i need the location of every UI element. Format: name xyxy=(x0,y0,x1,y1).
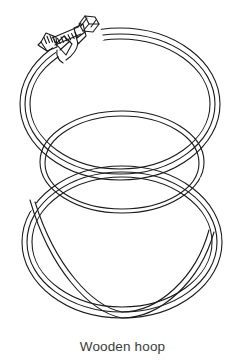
upper-ring-mid-edge xyxy=(25,34,215,174)
upper-ring xyxy=(10,28,233,214)
lower-ring-inner-edge xyxy=(32,177,212,307)
caption-row: Wooden hoop xyxy=(0,337,245,355)
illustration-container xyxy=(0,0,245,330)
wooden-hoop-illustration xyxy=(0,0,245,330)
inner-ring xyxy=(40,111,204,213)
upper-ring-outer-edge xyxy=(20,28,220,180)
thumb-nut-knurl-1 xyxy=(44,38,47,44)
upper-ring-occlusion-mask-left xyxy=(10,148,38,214)
inner-ring-outer-edge xyxy=(40,111,204,213)
figure-root: Wooden hoop xyxy=(0,0,245,364)
upper-ring-inner-edge xyxy=(30,39,210,169)
lower-ring-mid-edge xyxy=(27,172,217,312)
hoop-line-art xyxy=(10,14,233,318)
tension-screw-assembly xyxy=(38,14,104,63)
figure-caption: Wooden hoop xyxy=(80,339,165,355)
